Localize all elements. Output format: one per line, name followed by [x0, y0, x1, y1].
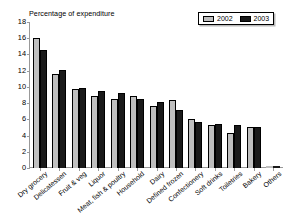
bar-group: [108, 22, 127, 168]
legend-label-2003: 2003: [254, 15, 270, 22]
bar-group: [205, 22, 224, 168]
y-tick-label: 6: [2, 115, 26, 122]
legend-swatch-2002: [203, 16, 214, 22]
bar-2002: [169, 100, 176, 168]
bar-group: [147, 22, 166, 168]
bar-2002: [52, 74, 59, 168]
bar-group: [30, 22, 49, 168]
bar-2003: [157, 102, 164, 169]
legend-entry-2002: 2002: [203, 15, 233, 22]
legend-label-2002: 2002: [217, 15, 233, 22]
bar-group: [166, 22, 185, 168]
chart-page: Percentage of expenditure 2002 2003 1816…: [0, 0, 291, 216]
y-tick-label: 16: [2, 34, 26, 41]
bar-2003: [98, 91, 105, 168]
bar-groups: [30, 22, 283, 168]
bar-2003: [79, 88, 86, 168]
bar-group: [127, 22, 146, 168]
bar-2003: [59, 70, 66, 168]
y-tick-mark: [27, 168, 30, 169]
bar-2002: [266, 166, 273, 168]
y-tick-label: 14: [2, 50, 26, 57]
bar-2003: [195, 122, 202, 168]
bar-group: [88, 22, 107, 168]
bar-2002: [227, 133, 234, 168]
legend-swatch-2003: [240, 16, 251, 22]
bar-2003: [137, 99, 144, 168]
bar-2002: [91, 96, 98, 168]
bar-2003: [254, 127, 261, 168]
bar-2003: [215, 124, 222, 168]
y-tick-label: 4: [2, 132, 26, 139]
y-tick-label: 8: [2, 99, 26, 106]
bar-2002: [247, 127, 254, 168]
legend-entry-2003: 2003: [240, 15, 270, 22]
bar-2003: [273, 166, 280, 168]
bar-2002: [150, 106, 157, 168]
y-tick-label: 10: [2, 83, 26, 90]
bar-2002: [208, 125, 215, 168]
y-tick-label: 18: [2, 18, 26, 25]
y-tick-label: 0: [2, 164, 26, 171]
bar-2002: [33, 38, 40, 168]
bar-2002: [188, 119, 195, 168]
bar-2003: [118, 93, 125, 168]
bar-2003: [234, 125, 241, 168]
x-axis-label: Bakery: [241, 170, 262, 189]
y-tick-label: 12: [2, 67, 26, 74]
bar-group: [69, 22, 88, 168]
bar-2003: [176, 110, 183, 168]
bar-group: [225, 22, 244, 168]
bar-group: [186, 22, 205, 168]
y-tick-label: 2: [2, 148, 26, 155]
x-axis-labels: Dry groceryDelicatessenFruit & vegLiquor…: [30, 170, 283, 216]
plot-area: 181614121086420: [29, 22, 283, 168]
x-axis-label: Others: [261, 170, 282, 189]
bar-group: [244, 22, 263, 168]
chart-title: Percentage of expenditure: [29, 9, 115, 18]
bar-group: [264, 22, 283, 168]
bar-2002: [72, 89, 79, 168]
bar-2003: [40, 50, 47, 168]
bar-2002: [130, 96, 137, 168]
bar-group: [49, 22, 68, 168]
bar-2002: [111, 99, 118, 168]
